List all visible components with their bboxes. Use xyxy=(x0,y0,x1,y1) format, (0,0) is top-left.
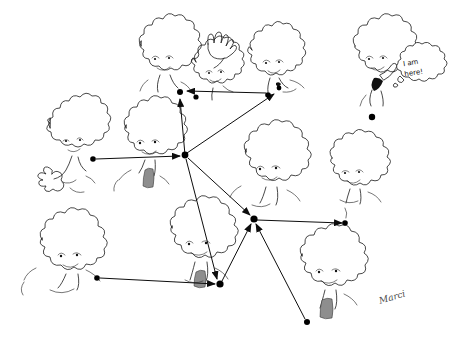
node-top-right-b xyxy=(277,86,282,91)
node-top-center-left xyxy=(177,89,183,95)
tree-face-right xyxy=(330,129,391,218)
tree-face-bottom-left xyxy=(21,208,107,295)
edge-bottom-right-to-hub xyxy=(256,224,305,319)
edge-hub-left-to-bottom-ctr xyxy=(186,159,217,279)
edge-bottom-ctr-to-hub-right xyxy=(222,224,251,281)
node-right-edge xyxy=(342,220,348,226)
artist-signature: Marci xyxy=(377,289,407,306)
tree-face-shaggy xyxy=(139,14,201,92)
tree-face-mid-right xyxy=(230,120,311,207)
tree-face-center xyxy=(114,96,188,191)
node-isolated-speaker xyxy=(369,114,375,120)
tree-face-bottom-right xyxy=(300,224,368,319)
edge-top-right-to-top-left xyxy=(187,91,266,93)
tree-face-waving xyxy=(38,93,111,192)
node-hub-left xyxy=(182,152,189,159)
speech-bubble: I am here! xyxy=(393,42,447,87)
tree-face-raised-hand xyxy=(191,32,244,100)
node-hub-right xyxy=(250,215,257,222)
node-left-mid xyxy=(90,156,96,162)
edge-hub-left-to-top-right xyxy=(187,94,274,153)
edge-left-mid-to-hub-left xyxy=(96,156,180,159)
illustration-scene: I am here! xyxy=(0,0,463,355)
node-top-right-a xyxy=(265,92,271,98)
node-top-center-right xyxy=(193,94,198,99)
cartoon-canvas: I am here! xyxy=(0,0,463,355)
node-bottom-center xyxy=(216,280,223,287)
edge-hub-left-to-top xyxy=(180,99,185,155)
node-bottom-right xyxy=(304,319,310,325)
node-bottom-left xyxy=(94,275,100,281)
tree-face-pair xyxy=(248,21,306,92)
tree-face-bottom-center xyxy=(170,196,238,288)
edge-hub-right-to-right xyxy=(257,220,342,223)
